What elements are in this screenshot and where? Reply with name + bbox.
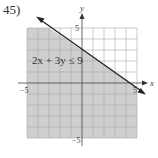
x-max-tick-label: 5 bbox=[133, 86, 137, 95]
inequality-label: 2x + 3y ≤ 9 bbox=[32, 54, 83, 66]
coordinate-plane bbox=[0, 0, 158, 158]
y-max-tick-label: 5 bbox=[75, 24, 79, 33]
x-axis-arrow-icon bbox=[142, 81, 148, 86]
graph-problem: 45) bbox=[0, 0, 158, 158]
x-axis-label: x bbox=[150, 78, 154, 88]
y-axis-label: y bbox=[80, 3, 84, 13]
y-min-tick-label: −5 bbox=[72, 136, 81, 145]
x-min-tick-label: −5 bbox=[20, 86, 29, 95]
y-axis-arrow-icon bbox=[80, 13, 85, 19]
